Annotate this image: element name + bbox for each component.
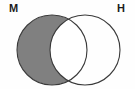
right-set-label: H <box>117 3 125 14</box>
region-left-only-shading <box>17 15 120 85</box>
venn-diagram-canvas <box>0 0 135 89</box>
venn-diagram-figure: M H <box>0 0 135 89</box>
left-set-label: M <box>9 3 18 14</box>
